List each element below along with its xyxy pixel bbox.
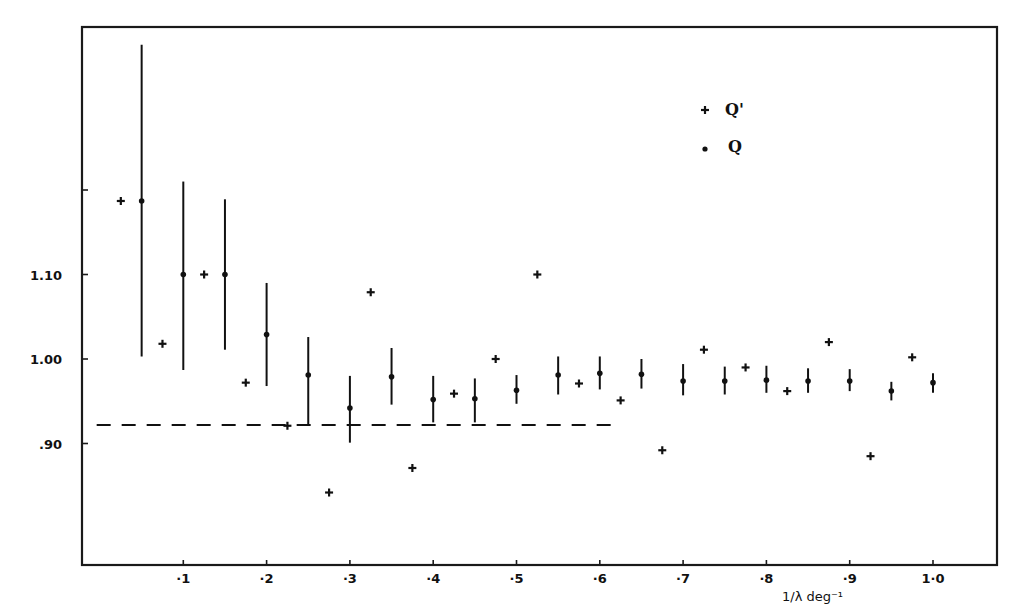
data-point-q-prime [533, 271, 541, 279]
dot-marker-icon [702, 146, 707, 151]
data-point-q-prime [825, 338, 833, 346]
data-point-q-prime [783, 387, 791, 395]
data-point-q [889, 382, 895, 401]
legend-label-q: Q [728, 137, 742, 156]
data-point-q [597, 356, 603, 389]
data-point-q-prime [117, 197, 125, 205]
data-point-q-prime [617, 396, 625, 404]
plot-frame [82, 27, 997, 565]
dot-marker-icon [347, 405, 353, 411]
data-point-q [847, 369, 853, 391]
dot-marker-icon [889, 388, 895, 394]
data-point-q [472, 378, 478, 422]
data-point-q-prime [867, 452, 875, 460]
dot-marker-icon [389, 374, 395, 380]
series-q [139, 45, 936, 443]
data-point-q [805, 368, 811, 393]
dot-marker-icon [597, 371, 603, 377]
dot-marker-icon [514, 387, 520, 393]
data-point-q-prime [658, 446, 666, 454]
data-point-q-prime [325, 489, 333, 497]
y-tick-label: .90 [39, 437, 62, 452]
dot-marker-icon [805, 378, 811, 384]
data-point-q [389, 348, 395, 405]
legend-label-q-prime: Q' [725, 100, 744, 119]
dot-marker-icon [639, 371, 645, 377]
data-point-q [181, 182, 187, 370]
data-point-q [680, 364, 686, 395]
y-tick-label: 1.00 [30, 352, 62, 367]
data-point-q-prime [700, 346, 708, 354]
dot-marker-icon [222, 272, 228, 278]
data-point-q-prime [283, 422, 291, 430]
data-point-q [722, 367, 728, 395]
dot-marker-icon [264, 332, 270, 338]
data-point-q [430, 376, 436, 422]
legend-item-q: Q [702, 137, 742, 156]
x-tick-label: ·6 [593, 571, 607, 586]
data-point-q [639, 359, 645, 389]
x-tick-label: ·5 [510, 571, 524, 586]
dot-marker-icon [930, 380, 936, 386]
data-point-q-prime [158, 340, 166, 348]
dot-marker-icon [555, 372, 561, 378]
x-tick-label: ·2 [260, 571, 274, 586]
data-point-q [139, 45, 145, 357]
data-point-q-prime [908, 353, 916, 361]
x-tick-label: 1·0 [921, 571, 944, 586]
dot-marker-icon [181, 272, 187, 278]
x-tick-label: ·3 [343, 571, 357, 586]
data-point-q [264, 283, 270, 386]
data-point-q-prime [450, 390, 458, 398]
series-q-prime [117, 197, 916, 497]
data-point-q [764, 366, 770, 393]
data-point-q [514, 375, 520, 404]
data-point-q-prime [408, 464, 416, 472]
data-point-q [222, 199, 228, 349]
data-point-q [347, 376, 353, 443]
x-axis-label: 1/λ deg⁻¹ [782, 589, 843, 604]
legend: Q' Q [701, 100, 744, 156]
x-tick-label: ·8 [759, 571, 773, 586]
y-tick-label: 1.10 [30, 268, 62, 283]
dot-marker-icon [472, 396, 478, 402]
x-tick-label: ·7 [676, 571, 690, 586]
data-point-q-prime [200, 271, 208, 279]
chart: .901.001.10 ·1·2·3·4·5·6·7·8·91·0 1/λ de… [0, 0, 1023, 611]
data-point-q-prime [492, 355, 500, 363]
data-point-q-prime [367, 288, 375, 296]
data-point-q-prime [242, 379, 250, 387]
x-tick-label: ·4 [426, 571, 440, 586]
legend-item-q-prime: Q' [701, 100, 744, 119]
data-point-q [305, 337, 311, 425]
dot-marker-icon [430, 397, 436, 403]
dot-marker-icon [764, 377, 770, 383]
plus-marker-icon [701, 106, 709, 114]
data-point-q-prime [742, 363, 750, 371]
dot-marker-icon [139, 198, 145, 204]
dot-marker-icon [305, 372, 311, 378]
x-tick-label: ·9 [843, 571, 857, 586]
dot-marker-icon [680, 378, 686, 384]
dot-marker-icon [722, 378, 728, 384]
x-tick-label: ·1 [176, 571, 190, 586]
data-point-q-prime [575, 380, 583, 388]
y-axis-ticks: .901.001.10 [30, 190, 88, 452]
data-point-q [555, 356, 561, 394]
data-point-q [930, 373, 936, 392]
dot-marker-icon [847, 378, 853, 384]
